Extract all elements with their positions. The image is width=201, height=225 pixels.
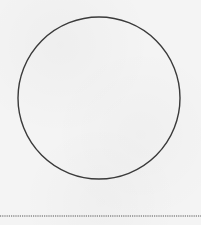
diagram-drawing (0, 0, 201, 225)
large-circle (18, 17, 180, 179)
paper-canvas (0, 0, 201, 225)
